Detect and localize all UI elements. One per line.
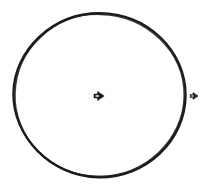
center-arrow-icon xyxy=(94,91,104,100)
figure-canvas: Hand-drawn circle with two arrow cursor … xyxy=(0,0,210,189)
right-arrow-marker[interactable] xyxy=(190,92,198,99)
center-arrow-inner-notch xyxy=(96,95,99,97)
center-arrow-marker[interactable] xyxy=(94,91,104,100)
diagram-svg xyxy=(0,0,210,189)
right-arrow-inner-notch xyxy=(191,95,193,96)
right-arrow-icon xyxy=(190,92,198,99)
